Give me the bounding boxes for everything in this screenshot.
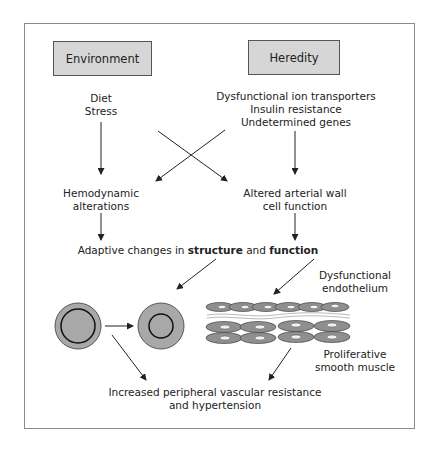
arrow-adaptive-to-vessel	[177, 259, 216, 289]
arrow-cells-to-outcome	[269, 348, 291, 380]
remodeled-vessel-icon	[138, 303, 184, 349]
basement-membrane-icon	[207, 313, 350, 319]
arrow-vessel-to-outcome	[112, 335, 146, 380]
arrows	[101, 122, 314, 380]
arrow-env-to-arterial	[158, 131, 227, 181]
endothelium-cells-icon	[206, 303, 349, 312]
diagram-graphics	[0, 0, 428, 449]
smooth-muscle-cells-icon	[206, 321, 350, 344]
arrow-adaptive-to-cells	[274, 259, 314, 294]
normal-vessel-icon	[55, 303, 101, 349]
